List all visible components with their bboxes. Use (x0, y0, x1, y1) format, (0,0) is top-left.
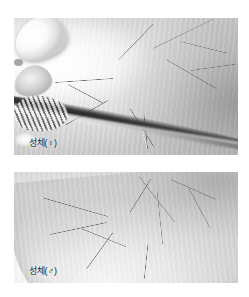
abdomen-marking (14, 59, 23, 66)
figure-caption-female: 성체(♀) (29, 139, 57, 148)
figure-caption-male: 성체(♂) (29, 267, 57, 276)
figure-adult-male: 성체(♂) (14, 172, 238, 283)
photo-adult-female (14, 18, 238, 155)
figure-adult-female: 성체(♀) (14, 18, 238, 155)
